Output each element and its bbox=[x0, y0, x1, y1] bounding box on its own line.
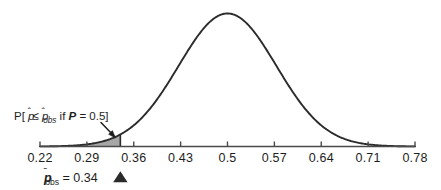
x-axis-tick-label: 0.5 bbox=[219, 151, 237, 165]
annotation-le-symbol: ≤ bbox=[29, 110, 42, 122]
annotation-obs-subscript: obs bbox=[43, 116, 56, 125]
annotation-if-word: if bbox=[56, 110, 68, 122]
x-axis-tick-label: 0.22 bbox=[27, 151, 52, 165]
observed-subscript: obs bbox=[45, 177, 59, 187]
observed-value: 0.34 bbox=[73, 171, 97, 185]
x-axis-tick-label: 0.64 bbox=[309, 151, 334, 165]
x-axis-tick-label: 0.43 bbox=[168, 151, 193, 165]
x-axis-tick-labels: 0.220.290.360.430.50.570.640.710.78 bbox=[27, 151, 427, 165]
observed-proportion-label: p̄obs = 0.34 bbox=[43, 168, 128, 187]
annotation-open-bracket: P[ bbox=[14, 110, 28, 122]
tail-probability-annotation: P[ p̂ ≤ p̂obs if P = 0.5] bbox=[14, 107, 116, 138]
annotation-text-line: P[ p̂ ≤ p̂obs if P = 0.5] bbox=[14, 107, 108, 125]
x-axis-tick-label: 0.57 bbox=[262, 151, 287, 165]
x-axis-tick-label: 0.71 bbox=[356, 151, 381, 165]
x-axis-tick-label: 0.29 bbox=[74, 151, 99, 165]
observed-equals: = bbox=[59, 171, 73, 185]
observed-triangle-marker bbox=[113, 171, 127, 182]
normal-curve-chart: 0.220.290.360.430.50.570.640.710.78 P[ p… bbox=[0, 0, 441, 190]
observed-proportion-text: p̄obs = 0.34 bbox=[43, 168, 98, 187]
normal-density-curve bbox=[40, 14, 415, 147]
x-axis-tick-label: 0.78 bbox=[402, 151, 427, 165]
probability-distribution-figure: 0.220.290.360.430.50.570.640.710.78 P[ p… bbox=[0, 0, 441, 190]
annotation-equals-value: = 0.5] bbox=[76, 110, 108, 122]
annotation-arrow-icon bbox=[101, 123, 116, 139]
x-axis-tick-label: 0.36 bbox=[121, 151, 146, 165]
